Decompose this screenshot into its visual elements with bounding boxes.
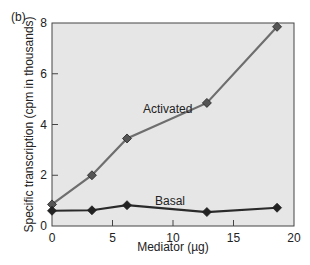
y-tick-label: 8 <box>40 16 47 30</box>
y-tick-label: 6 <box>40 67 47 81</box>
y-axis-title: Specific transcription (cpm in thousands… <box>22 16 36 232</box>
y-tick-label: 4 <box>40 118 47 132</box>
x-tick-label: 5 <box>109 231 116 245</box>
series-label-basal: Basal <box>155 194 185 208</box>
x-tick-label: 20 <box>287 231 301 245</box>
line-chart: 0510152002468Mediator (µg)Specific trans… <box>0 0 310 265</box>
y-tick-label: 2 <box>40 168 47 182</box>
series-label-activated: Activated <box>143 102 192 116</box>
x-axis-title: Mediator (µg) <box>137 240 209 254</box>
y-tick-label: 0 <box>40 219 47 233</box>
x-tick-label: 15 <box>227 231 241 245</box>
x-tick-label: 0 <box>49 231 56 245</box>
